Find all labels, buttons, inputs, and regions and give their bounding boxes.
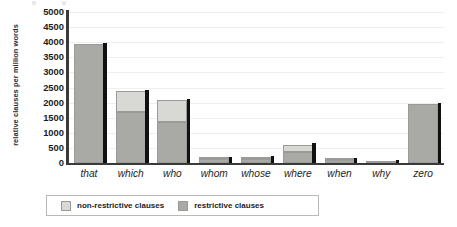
x-axis-line xyxy=(66,163,444,165)
legend-label-restrictive: restrictive clauses xyxy=(194,201,264,210)
y-axis-line xyxy=(66,10,69,165)
y-tick-1000: 1000 xyxy=(16,128,64,138)
y-axis-tick-labels: 5000450040003500300025002000150010005000 xyxy=(14,0,64,175)
bar-segment-nonrestrictive-who xyxy=(157,100,187,121)
gridline-4500 xyxy=(68,27,444,28)
bar-shadow-zero xyxy=(438,103,441,163)
gridline-5000 xyxy=(68,12,444,13)
bar-segment-nonrestrictive-where xyxy=(283,145,313,152)
bar-zero[interactable] xyxy=(408,104,438,163)
y-tick-2500: 2500 xyxy=(16,83,64,93)
bar-shadow-which xyxy=(145,90,148,163)
gridline-3000 xyxy=(68,72,444,73)
bar-that[interactable] xyxy=(74,44,104,163)
legend-label-nonrestrictive: non-restrictive clauses xyxy=(77,201,164,210)
chart-canvas: relative clauses per million words 50004… xyxy=(0,0,457,227)
x-tick-zero: zero xyxy=(393,167,453,181)
legend-item-nonrestrictive[interactable]: non-restrictive clauses xyxy=(61,201,164,211)
gridline-4000 xyxy=(68,42,444,43)
gridline-3500 xyxy=(68,57,444,58)
bar-which[interactable] xyxy=(116,91,146,163)
y-tick-4500: 4500 xyxy=(16,22,64,32)
bar-segment-nonrestrictive-whose xyxy=(241,157,271,159)
y-tick-3500: 3500 xyxy=(16,52,64,62)
gridline-2500 xyxy=(68,88,444,89)
legend-swatch-nonrestrictive xyxy=(61,201,71,211)
y-tick-3000: 3000 xyxy=(16,67,64,77)
bar-segment-nonrestrictive-whom xyxy=(199,157,229,159)
x-axis-tick-labels: thatwhichwhowhomwhosewherewhenwhyzero xyxy=(68,167,444,183)
chart-legend: non-restrictive clausesrestrictive claus… xyxy=(46,195,319,216)
plot-area xyxy=(68,12,444,163)
bar-shadow-where xyxy=(312,143,315,163)
y-tick-500: 500 xyxy=(16,143,64,153)
y-tick-5000: 5000 xyxy=(16,7,64,17)
legend-swatch-restrictive xyxy=(178,201,188,211)
bar-segment-restrictive-that xyxy=(74,44,104,163)
y-tick-2000: 2000 xyxy=(16,98,64,108)
bar-segment-nonrestrictive-when xyxy=(325,158,355,160)
bar-segment-restrictive-zero xyxy=(408,104,438,163)
bar-segment-restrictive-where xyxy=(283,152,313,163)
bar-shadow-that xyxy=(103,43,106,163)
y-tick-1500: 1500 xyxy=(16,113,64,123)
bar-segment-restrictive-who xyxy=(157,122,187,163)
bar-who[interactable] xyxy=(157,100,187,163)
bar-where[interactable] xyxy=(283,145,313,163)
bar-shadow-who xyxy=(187,99,190,163)
bar-shadow-whose xyxy=(271,156,274,163)
bar-segment-restrictive-which xyxy=(116,112,146,163)
bar-segment-nonrestrictive-which xyxy=(116,91,146,111)
legend-item-restrictive[interactable]: restrictive clauses xyxy=(178,201,264,211)
y-tick-0: 0 xyxy=(16,158,64,168)
y-tick-4000: 4000 xyxy=(16,37,64,47)
